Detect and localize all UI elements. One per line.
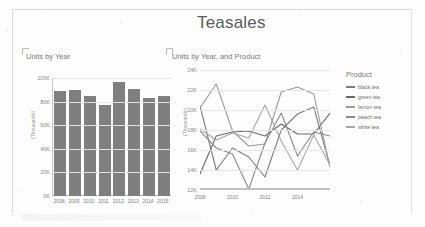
bar-chart-x-tick-labels: 20082009201020112012201320142015 (52, 198, 170, 204)
line-chart-x-tick-label: 2008 (194, 194, 205, 200)
bar-chart-y-tick-label: 80K (40, 99, 50, 105)
legend-item[interactable]: peach tea (346, 113, 418, 121)
line-chart-gridline (200, 90, 330, 91)
bar-chart-y-tick-label: 40K (40, 146, 50, 152)
chart-units-by-year[interactable]: Units by Year (Thousands) 0K20K40K60K80K… (18, 44, 176, 209)
line-chart-title: Units by Year, and Product (172, 52, 260, 61)
line-chart-y-tick-label: 16K (187, 147, 197, 153)
bar-chart-y-axis-label: (Thousands) (30, 111, 36, 139)
legend-item-label: black tea (358, 84, 379, 90)
line-chart-gridline (200, 70, 330, 71)
line-chart-y-tick-label: 12K (187, 187, 197, 193)
bar-chart-bar[interactable] (113, 78, 125, 196)
bar-chart-bar[interactable] (128, 78, 140, 196)
legend-color-swatch-icon (346, 116, 355, 118)
page-title: Teasales (197, 13, 266, 33)
page-edge-left (12, 9, 13, 214)
bar-chart-bar-rect (113, 82, 125, 196)
legend-item[interactable]: green tea (346, 93, 418, 101)
bar-chart-gridline (53, 172, 171, 173)
line-chart-series-line[interactable] (200, 84, 330, 167)
bar-chart-gridline (53, 149, 171, 150)
legend-item-label: lemon tea (358, 104, 381, 110)
bar-chart-gridline (53, 78, 171, 79)
line-chart-plot-area: 12K14K16K18K20K22K24K (200, 70, 330, 190)
bar-chart-bar[interactable] (54, 78, 66, 196)
bar-chart-x-tick-label: 2013 (127, 198, 139, 204)
bar-chart-x-tick-label: 2009 (68, 198, 80, 204)
bar-chart-bar[interactable] (69, 78, 81, 196)
chart-units-by-year-and-product[interactable]: Units by Year, and Product (Thousands) 1… (168, 44, 343, 209)
bar-chart-bar[interactable] (99, 78, 111, 196)
line-chart-y-tick-label: 24K (187, 67, 197, 73)
scan-artifact (300, 14, 302, 16)
legend-item[interactable]: white tea (346, 123, 418, 131)
scan-artifact (400, 52, 402, 54)
bar-chart-y-tick-label: 20K (40, 169, 50, 175)
legend-title: Product (346, 70, 418, 79)
line-chart-x-tick-labels: 2008201020122014 (200, 194, 330, 204)
scan-artifact (360, 200, 362, 202)
bar-chart-y-tick-label: 60K (40, 122, 50, 128)
line-chart-x-tick-label: 2014 (292, 194, 303, 200)
legend-item[interactable]: black tea (346, 83, 418, 91)
scan-artifact (6, 30, 8, 32)
line-chart-x-tick-label: 2012 (259, 194, 270, 200)
bar-chart-gridline (53, 102, 171, 103)
legend-color-swatch-icon (346, 106, 355, 108)
bar-chart-y-tick-label: 0K (43, 193, 50, 199)
chart-legend: Product black teagreen tealemon teapeach… (346, 70, 418, 133)
bar-chart-x-tick-label: 2010 (83, 198, 95, 204)
scan-artifact (18, 190, 20, 192)
bar-chart-bar-rect (143, 98, 155, 196)
bar-chart-x-tick-label: 2008 (53, 198, 65, 204)
scan-artifact (40, 8, 42, 10)
bar-chart-bar-rect (84, 96, 96, 196)
legend-items: black teagreen tealemon teapeach teawhit… (346, 83, 418, 131)
line-chart-x-axis (200, 188, 330, 190)
legend-color-swatch-icon (346, 86, 355, 88)
legend-item-label: peach tea (358, 114, 381, 120)
line-chart-y-tick-label: 20K (187, 107, 197, 113)
line-chart-y-tick-label: 22K (187, 87, 197, 93)
legend-item[interactable]: lemon tea (346, 103, 418, 111)
line-chart-y-tick-label: 18K (187, 127, 197, 133)
line-chart-gridline (200, 110, 330, 111)
bar-chart-y-tick-label: 100K (37, 75, 50, 81)
bar-chart-bars (53, 78, 171, 196)
bar-chart-gridline (53, 125, 171, 126)
scan-artifact (250, 212, 252, 214)
page-edge-top (12, 9, 412, 10)
bar-chart-bar-rect (99, 105, 111, 196)
bar-chart-plot-area: 0K20K40K60K80K100K (52, 78, 171, 196)
line-chart-series-line[interactable] (200, 113, 330, 189)
bar-chart-x-tick-label: 2014 (142, 198, 154, 204)
legend-color-swatch-icon (346, 126, 355, 128)
line-chart-x-tick-label: 2010 (227, 194, 238, 200)
scan-artifact (120, 22, 122, 24)
legend-item-label: white tea (358, 124, 379, 130)
bar-chart-x-tick-label: 2012 (112, 198, 124, 204)
legend-item-label: green tea (358, 94, 380, 100)
bar-chart-bar[interactable] (143, 78, 155, 196)
line-chart-gridline (200, 150, 330, 151)
bar-chart-bar[interactable] (84, 78, 96, 196)
bar-chart-bar-rect (54, 91, 66, 196)
line-chart-gridline (200, 130, 330, 131)
legend-color-swatch-icon (346, 96, 355, 98)
report-page: Teasales Units by Year (Thousands) 0K20K… (0, 0, 425, 227)
bar-chart-title: Units by Year (26, 52, 70, 61)
page-footer-caption (22, 214, 202, 221)
line-chart-y-tick-label: 14K (187, 167, 197, 173)
bar-chart-x-tick-label: 2011 (98, 198, 110, 204)
bar-chart-bar-rect (69, 90, 81, 196)
line-chart-gridline (200, 170, 330, 171)
bar-chart-bar-rect (128, 89, 140, 196)
